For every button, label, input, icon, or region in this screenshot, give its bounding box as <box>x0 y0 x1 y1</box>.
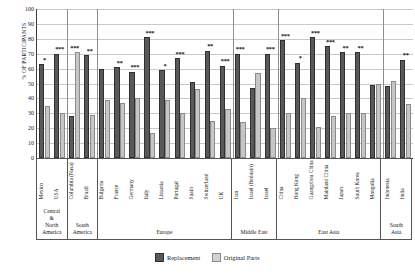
bar-group: *** <box>142 9 157 158</box>
legend-label: Original Parts <box>224 254 260 261</box>
bar-replacement <box>39 64 44 158</box>
legend-item[interactable]: Original Parts <box>212 253 259 262</box>
bar-group: * <box>157 9 172 158</box>
bar-replacement <box>250 88 255 158</box>
bar-group: * <box>37 9 52 158</box>
bar-replacement <box>175 58 180 158</box>
bar-original-parts <box>165 100 170 158</box>
significance-marker: *** <box>311 30 320 36</box>
bar-replacement <box>99 69 104 158</box>
bar-original-parts <box>120 103 125 158</box>
bar-group: *** <box>323 9 338 158</box>
bar-original-parts <box>301 98 306 158</box>
significance-marker: ** <box>358 45 364 51</box>
region-cell: Middle East <box>232 159 277 239</box>
bar-original-parts <box>90 115 95 158</box>
significance-marker: *** <box>326 39 335 45</box>
bar-group: *** <box>172 9 187 158</box>
legend-label: Replacement <box>167 254 200 261</box>
group-separator <box>383 9 384 158</box>
significance-marker: * <box>163 63 166 69</box>
legend-item[interactable]: Replacement <box>155 253 200 262</box>
bar-original-parts <box>135 98 140 158</box>
bar-group <box>248 9 263 158</box>
bar-replacement <box>84 55 89 158</box>
bar-original-parts <box>391 81 396 158</box>
bar-original-parts <box>105 100 110 158</box>
bar-original-parts <box>316 127 321 158</box>
group-separator <box>278 9 279 158</box>
bar-original-parts <box>406 104 411 158</box>
bar-group <box>187 9 202 158</box>
significance-marker: * <box>299 55 302 61</box>
bar-original-parts <box>331 116 336 158</box>
bar-group: ** <box>398 9 413 158</box>
bar-replacement <box>355 52 360 158</box>
bar-group: *** <box>233 9 248 158</box>
bar-original-parts <box>255 73 260 158</box>
region-label: SouthAmerica <box>73 222 92 236</box>
y-axis-tick-label: 90 <box>18 21 34 27</box>
bar-original-parts <box>361 113 366 158</box>
y-axis-tick-label: 70 <box>18 51 34 57</box>
legend-swatch-replacement <box>155 253 164 262</box>
bar-replacement <box>370 85 375 158</box>
bar-replacement <box>295 63 300 158</box>
bar-group <box>383 9 398 158</box>
region-band: Central&NorthAmericaSouthAmericaEuropeMi… <box>36 158 412 240</box>
bar-group: *** <box>308 9 323 158</box>
significance-marker: *** <box>236 46 245 52</box>
region-cell: Central&NorthAmerica <box>37 159 68 239</box>
significance-marker: *** <box>130 64 139 70</box>
bar-replacement <box>340 52 345 158</box>
significance-marker: *** <box>281 33 290 39</box>
region-cell: Europe <box>98 159 232 239</box>
y-axis-tick-label: 20 <box>18 125 34 131</box>
bar-replacement <box>235 54 240 158</box>
bar-replacement <box>114 67 119 158</box>
bar-group: ** <box>82 9 97 158</box>
group-separator <box>97 9 98 158</box>
bar-replacement <box>144 37 149 158</box>
group-separator <box>233 9 234 158</box>
significance-marker: *** <box>266 46 275 52</box>
significance-marker: ** <box>117 60 123 66</box>
bar-replacement <box>385 86 390 158</box>
significance-marker: *** <box>70 45 79 51</box>
y-axis-ticks: 1009080706050403020100 <box>18 4 34 160</box>
significance-marker: * <box>43 57 46 63</box>
bar-replacement <box>190 82 195 158</box>
bar-original-parts <box>346 113 351 158</box>
significance-marker: ** <box>343 45 349 51</box>
bar-original-parts <box>45 106 50 158</box>
bar-replacement <box>69 116 74 158</box>
region-cell: SouthAsia <box>381 159 411 239</box>
group-separator <box>67 9 68 158</box>
legend-swatch-original <box>212 253 221 262</box>
y-axis-tick-label: 0 <box>18 155 34 161</box>
bar-group: *** <box>52 9 67 158</box>
bar-original-parts <box>210 121 215 158</box>
bar-group: *** <box>67 9 82 158</box>
region-label: Europe <box>156 229 172 236</box>
y-axis-tick-label: 50 <box>18 81 34 87</box>
bar-replacement <box>54 54 59 158</box>
y-axis-tick-label: 40 <box>18 95 34 101</box>
y-axis-tick-label: 100 <box>18 6 34 12</box>
bar-original-parts <box>240 122 245 158</box>
bar-replacement <box>205 51 210 158</box>
bar-chart: % OF PARTICIPANTS 1009080706050403020100… <box>0 0 415 280</box>
significance-marker: *** <box>55 46 64 52</box>
significance-marker: ** <box>87 48 93 54</box>
significance-marker: ** <box>207 43 213 49</box>
bar-group: *** <box>278 9 293 158</box>
region-label: SouthAsia <box>390 222 403 236</box>
plot-area: ****************************************… <box>36 9 413 159</box>
bar-replacement <box>325 46 330 158</box>
y-axis-tick-label: 30 <box>18 110 34 116</box>
bar-replacement <box>129 72 134 158</box>
bar-original-parts <box>286 113 291 158</box>
bar-original-parts <box>60 113 65 158</box>
bar-replacement <box>400 60 405 158</box>
bar-original-parts <box>180 113 185 158</box>
